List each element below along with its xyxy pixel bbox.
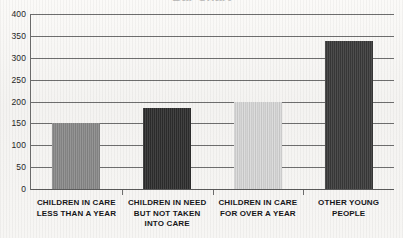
category-label-line: CHILDREN IN NEED <box>122 198 213 209</box>
bar-texture <box>143 108 191 189</box>
bar-1 <box>52 123 100 189</box>
y-tick-label-150: 150 <box>0 118 26 128</box>
category-label-line: OTHER YOUNG <box>303 198 394 209</box>
x-tick-3 <box>303 190 304 195</box>
category-label-line: LESS THAN A YEAR <box>31 209 122 220</box>
bar-4 <box>325 41 373 189</box>
y-tick-label-200: 200 <box>0 97 26 107</box>
category-label-line: FOR OVER A YEAR <box>213 209 304 220</box>
category-label-3: CHILDREN IN CAREFOR OVER A YEAR <box>213 198 304 219</box>
category-label-line: PEOPLE <box>303 209 394 220</box>
gridline-350 <box>30 36 394 37</box>
x-tick-1 <box>122 190 123 195</box>
category-label-2: CHILDREN IN NEEDBUT NOT TAKENINTO CARE <box>122 198 213 230</box>
bar-2 <box>143 108 191 189</box>
bar-3 <box>234 102 282 190</box>
chart-page: Bar Chart 050100150200250300350400 CHILD… <box>0 0 403 238</box>
category-label-line: CHILDREN IN CARE <box>213 198 304 209</box>
bar-texture <box>325 41 373 189</box>
x-tick-2 <box>213 190 214 195</box>
category-label-line: CHILDREN IN CARE <box>31 198 122 209</box>
category-label-4: OTHER YOUNGPEOPLE <box>303 198 394 219</box>
y-tick-label-300: 300 <box>0 53 26 63</box>
y-tick-label-100: 100 <box>0 140 26 150</box>
y-axis-line <box>30 14 31 190</box>
category-label-line: INTO CARE <box>122 219 213 230</box>
y-tick-label-350: 350 <box>0 31 26 41</box>
bar-texture <box>234 102 282 190</box>
bar-chart-plot: 050100150200250300350400 CHILDREN IN CAR… <box>0 0 403 238</box>
y-tick-label-400: 400 <box>0 9 26 19</box>
bar-texture <box>52 123 100 189</box>
y-tick-label-250: 250 <box>0 75 26 85</box>
y-tick-label-0: 0 <box>0 184 26 194</box>
category-label-line: BUT NOT TAKEN <box>122 209 213 220</box>
y-tick-label-50: 50 <box>0 162 26 172</box>
category-label-1: CHILDREN IN CARELESS THAN A YEAR <box>31 198 122 219</box>
gridline-400 <box>30 14 394 15</box>
